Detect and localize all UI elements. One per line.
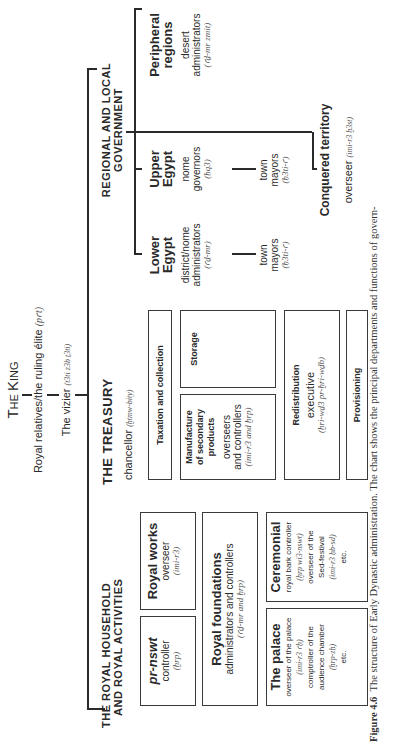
box-palace: The palace overseer of the palace (imi-r… — [266, 608, 368, 706]
box-ceremonial: Ceremonial royal bark controller (ḫrp wi… — [266, 512, 368, 602]
conquered-branch — [312, 132, 314, 170]
lower-town-mayors: town mayors (ḥ3ti-ꜥ) — [258, 225, 291, 285]
connector-line — [22, 395, 32, 397]
branch-drop — [134, 9, 142, 11]
vizier: The vizier (t3ti z3b ṯ3ti) — [60, 300, 72, 480]
connector-line — [232, 254, 256, 256]
box-redistribution: Redistribution executive (ḫri-wḏ3 pr-ḫri… — [284, 310, 340, 480]
branch-line — [87, 70, 89, 710]
rotated-page: THE KING Royal relatives/the ruling élit… — [0, 0, 394, 750]
box-pr-nswt: pr-nswt controller (ḫrp) — [140, 616, 196, 706]
branch-drop — [87, 69, 97, 71]
figure-caption: Figure 4.6 The structure of Early Dynast… — [368, 206, 379, 742]
king-title: THE KING — [4, 330, 21, 450]
box-provisioning: Provisioning — [346, 310, 368, 480]
col-lower-egypt: Lower Egypt district/nome administrators… — [148, 215, 213, 295]
branch-drop — [312, 169, 317, 171]
col-peripheral: Peripheral regions desert administrators… — [148, 0, 213, 90]
box-storage: Storage — [180, 310, 276, 388]
box-taxation: Taxation and collection — [148, 310, 172, 480]
box-royal-foundations: Royal foundations administrators and con… — [202, 512, 258, 706]
treasury-official: chancellor (ḫtmw-bity) — [122, 300, 134, 480]
conquered-official: overseer (imi-r3 ḫ3st) — [342, 70, 354, 250]
treasury-heading: THE TREASURY — [100, 305, 115, 485]
branch-drop — [134, 169, 142, 171]
royal-relatives: Royal relatives/the ruling élite (pꜥt) — [32, 245, 44, 535]
box-royal-works: Royal works overseer (imi-r3) — [140, 512, 196, 610]
connector-line — [47, 395, 59, 397]
household-heading: THE ROYAL HOUSEHOLD AND ROYAL ACTIVITIES — [100, 528, 124, 728]
regional-heading: REGIONAL AND LOCAL GOVERNMENT — [100, 30, 124, 230]
connector-line — [126, 132, 134, 134]
conquered-title: Conquered territory — [318, 60, 332, 260]
box-manufacture: Manufacture of secondary products overse… — [180, 394, 276, 480]
branch-drop — [134, 254, 142, 256]
col-upper-egypt: Upper Egypt nome governors (ḥq3) — [148, 133, 213, 205]
upper-town-mayors: town mayors (ḥ3ti-ꜥ) — [258, 140, 291, 200]
connector-line — [232, 169, 256, 171]
